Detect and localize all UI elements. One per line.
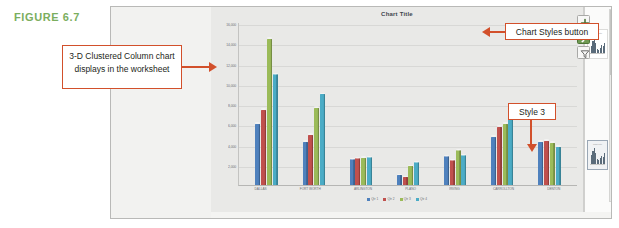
callout-arrow-worksheet-line [182,66,210,68]
x-axis-tick: PLANO [405,187,416,192]
figure-label: FIGURE 6.7 [14,11,80,23]
bar[interactable] [491,137,496,185]
thumbnail-axis [590,53,605,54]
bar-group[interactable] [255,23,277,185]
x-axis-tick: IRVING [449,187,460,192]
bar[interactable] [273,74,278,185]
y-axis-tick: 16,000 [226,23,236,28]
legend-swatch [367,198,370,201]
bar[interactable] [408,166,413,185]
bar[interactable] [508,112,513,185]
funnel-icon [580,49,590,59]
bar[interactable] [414,162,419,185]
legend-label: Qtr 3 [404,197,411,202]
bar[interactable] [556,147,561,186]
thumbnail-plot [591,147,605,165]
x-axis-tick: CARROLLTON [493,187,514,192]
legend-item[interactable]: Qtr 1 [367,197,378,201]
bar[interactable] [456,150,461,185]
legend-swatch [383,198,386,201]
bar[interactable] [303,142,308,185]
x-axis-tick: FORT WORTH [300,187,321,192]
bar[interactable] [355,158,360,185]
bar[interactable] [503,124,508,185]
styles-pane-scrollbar[interactable] [609,9,613,202]
x-axis-tick: DENTON [547,187,560,192]
legend-item[interactable]: Qtr 2 [383,197,394,201]
callout-worksheet: 3-D Clustered Column chart displays in t… [62,45,182,89]
bar[interactable] [450,160,455,185]
chart-legend[interactable]: Qtr 1Qtr 2Qtr 3Qtr 4 [211,197,583,201]
bar[interactable] [538,142,543,185]
thumbnail-title: Chart Title [588,143,607,145]
bar[interactable] [320,94,325,185]
y-axis-tick: 2,000 [228,164,236,169]
legend-swatch [400,198,403,201]
bar[interactable] [461,155,466,185]
y-axis-tick: 6,000 [228,124,236,129]
y-axis-tick: 8,000 [228,104,236,109]
bar[interactable] [397,175,402,185]
worksheet-area [111,7,211,218]
legend-swatch [416,198,419,201]
callout-arrow-style3-line [530,119,532,145]
legend-label: Qtr 1 [371,197,378,202]
callout-arrow-styles-head [482,27,490,37]
bar-group[interactable] [303,23,325,185]
legend-label: Qtr 4 [420,197,427,202]
bar[interactable] [403,177,408,185]
bar[interactable] [367,157,372,185]
bar-group[interactable] [444,23,466,185]
chart-title[interactable]: Chart Title [211,11,583,17]
bar[interactable] [444,156,449,185]
callout-arrow-worksheet-head [209,62,217,72]
chart-y-axis: 16,00014,00012,00010,0008,0006,0004,0002… [213,23,237,185]
legend-item[interactable]: Qtr 4 [416,197,427,201]
bar[interactable] [308,135,313,185]
bar[interactable] [255,124,260,185]
callout-style3: Style 3 [508,103,556,120]
chart-filters-button[interactable] [577,46,590,59]
bar[interactable] [497,127,502,185]
y-axis-tick: 4,000 [228,144,236,149]
legend-label: Qtr 2 [387,197,394,202]
bar[interactable] [314,108,319,185]
bar-group[interactable] [350,23,372,185]
callout-arrow-styles-line [489,31,506,33]
y-axis-tick: 10,000 [226,83,236,88]
x-axis-tick: DALLAS [255,187,267,192]
y-axis-tick: 14,000 [226,43,236,48]
callout-chart-styles-button: Chart Styles button [505,23,599,40]
thumbnail-axis [590,164,605,165]
chart-x-axis: DALLASFORT WORTHARLINGTONPLANOIRVINGCARR… [238,187,577,196]
y-axis-tick: 12,000 [226,63,236,68]
legend-item[interactable]: Qtr 3 [400,197,411,201]
style-thumbnail-3[interactable]: Chart Title [587,140,608,170]
x-axis-tick: ARLINGTON [354,187,372,192]
callout-arrow-style3-head [527,144,537,152]
bar[interactable] [550,143,555,185]
bar-group[interactable] [397,23,419,185]
bar[interactable] [267,39,272,185]
bar[interactable] [350,159,355,185]
bar[interactable] [544,141,549,185]
scrollbar-thumb[interactable] [610,10,612,75]
bar[interactable] [261,110,266,185]
bar[interactable] [361,158,366,185]
